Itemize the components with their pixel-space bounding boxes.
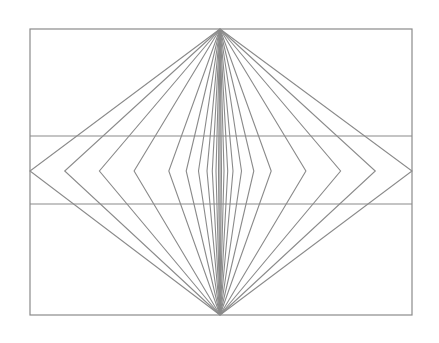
illusion-figure [0,0,439,343]
illusion-figure-container [0,0,439,343]
